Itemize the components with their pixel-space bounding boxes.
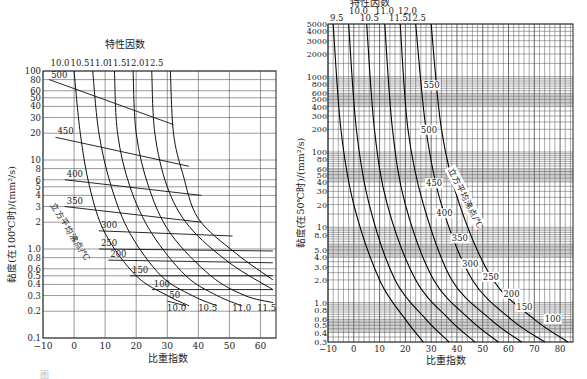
x-tick-label: 70 xyxy=(529,344,540,354)
cf-bottom-label: 11.5 xyxy=(257,303,276,313)
bp-label: 250 xyxy=(101,238,117,248)
cf-top-label: 9.5 xyxy=(330,13,344,23)
bp-label: 500 xyxy=(51,70,67,80)
left-y-axis-title: 黏度(在100℃时)/(mm²/s) xyxy=(6,166,17,283)
y-tick-label: 80 xyxy=(317,155,327,164)
right-cf-curves xyxy=(333,24,568,342)
y-tick-label: 0.3 xyxy=(27,291,41,301)
cf-bottom-label: 10.0 xyxy=(167,303,186,313)
bp-label: 150 xyxy=(516,302,532,312)
y-tick-label: 8 xyxy=(36,164,41,174)
bp-label: 150 xyxy=(132,265,148,275)
bp-label: 450 xyxy=(426,178,442,188)
x-tick-label: 10 xyxy=(99,341,111,351)
y-tick-label: 20 xyxy=(317,201,327,210)
y-tick-label: 3 xyxy=(36,202,41,212)
cf-top-label: 11.0 xyxy=(90,58,109,68)
y-tick-label: 0.4 xyxy=(314,329,327,338)
left-chart-title: 特性因数 xyxy=(105,38,145,50)
y-tick-label: 80 xyxy=(30,75,41,85)
bp-line-200 xyxy=(108,260,273,263)
bp-label: 400 xyxy=(436,208,452,218)
y-tick-label: 300 xyxy=(312,112,327,121)
x-tick-label: 0 xyxy=(71,341,77,351)
cf-top-label: 10.0 xyxy=(51,58,70,68)
figure-canvas: 100806050403020108654321.00.80.60.50.40.… xyxy=(0,0,587,379)
left-x-axis: −100102030405060 xyxy=(34,341,267,351)
bp-label: 500 xyxy=(421,125,437,135)
cf-bottom-label: 11.0 xyxy=(232,303,251,313)
left-chart: 100806050403020108654321.00.80.60.50.40.… xyxy=(6,38,276,364)
left-x-axis-title: 比重指数 xyxy=(148,352,188,364)
right-y-axis: 5000400030002000100080060050040030020010… xyxy=(307,20,327,347)
y-tick-label: 200 xyxy=(312,125,327,134)
y-tick-label: 2.0 xyxy=(314,276,327,285)
y-tick-label: 30 xyxy=(30,113,41,123)
x-tick-label: 40 xyxy=(452,344,463,354)
x-tick-label: 50 xyxy=(477,344,488,354)
y-tick-label: 4.0 xyxy=(314,253,327,262)
right-y-axis-title: 黏度(在50℃时)/(mm²/s) xyxy=(295,138,306,249)
cf-curve-12.0 xyxy=(152,71,273,290)
bp-label: 100 xyxy=(545,314,561,324)
right-x-axis-title: 比重指数 xyxy=(426,354,466,366)
bp-label: 450 xyxy=(57,126,73,136)
x-tick-label: 20 xyxy=(400,344,411,354)
x-tick-label: 80 xyxy=(555,344,566,354)
bp-label: 300 xyxy=(101,220,117,230)
x-tick-label: 40 xyxy=(193,341,205,351)
cf-curve-12.5 xyxy=(170,71,273,280)
y-tick-label: 0.8 xyxy=(314,306,327,315)
x-tick-label: 50 xyxy=(224,341,236,351)
bp-label: 350 xyxy=(67,196,83,206)
bp-line-500 xyxy=(49,80,173,125)
y-tick-label: 400 xyxy=(312,103,327,112)
bp-line-400 xyxy=(65,180,202,196)
right-x-axis: −1001020304050607080 xyxy=(319,344,565,354)
x-tick-label: −10 xyxy=(319,344,337,354)
left-bp-axis-label: 立方平均沸点/℃ xyxy=(48,201,92,263)
cf-top-label: 12.5 xyxy=(145,58,164,68)
x-tick-label: 30 xyxy=(426,344,437,354)
figure-caption: 图 xyxy=(40,370,49,379)
bp-label: 50 xyxy=(169,290,180,300)
cf-top-label: 11.5 xyxy=(108,58,127,68)
cf-curve-9.5 xyxy=(333,24,423,342)
y-tick-label: 800 xyxy=(312,80,327,89)
y-tick-label: 40 xyxy=(30,101,41,111)
bp-label: 200 xyxy=(110,249,126,259)
y-tick-label: 20 xyxy=(30,128,41,138)
y-tick-label: 3.0 xyxy=(314,263,327,272)
y-tick-label: 2000 xyxy=(307,50,327,59)
bp-label: 200 xyxy=(503,289,519,299)
cf-top-label: 10.5 xyxy=(71,58,90,68)
x-tick-label: 0 xyxy=(351,344,356,354)
y-tick-label: 2 xyxy=(36,217,41,227)
x-tick-label: 20 xyxy=(130,341,142,351)
x-tick-label: 10 xyxy=(374,344,385,354)
y-tick-label: 4000 xyxy=(307,27,327,36)
left-bp-lines: 50045040035030025020015010050 xyxy=(49,70,273,306)
y-tick-label: 3000 xyxy=(307,37,327,46)
bp-label: 550 xyxy=(423,80,439,90)
y-tick-label: 0.4 xyxy=(27,279,41,289)
bp-line-450 xyxy=(55,137,189,166)
bp-label: 100 xyxy=(154,279,170,289)
y-tick-label: 4 xyxy=(36,190,41,200)
y-tick-label: 0.2 xyxy=(27,306,41,316)
bp-label: 400 xyxy=(67,169,83,179)
x-tick-label: −10 xyxy=(34,341,53,351)
y-tick-label: 8.0 xyxy=(314,231,327,240)
right-chart: 5000400030002000100080060050040030020010… xyxy=(295,0,573,366)
y-tick-label: 0.8 xyxy=(27,253,41,263)
x-tick-label: 60 xyxy=(255,341,267,351)
bp-label: 300 xyxy=(462,259,478,269)
x-tick-label: 30 xyxy=(162,341,174,351)
cf-bottom-label: 10.5 xyxy=(198,303,217,313)
cf-top-label: 12.0 xyxy=(126,58,145,68)
x-tick-label: 60 xyxy=(503,344,514,354)
y-tick-label: 40 xyxy=(317,178,327,187)
bp-label: 250 xyxy=(483,272,499,282)
cf-top-label: 12.5 xyxy=(407,13,426,23)
y-tick-label: 30 xyxy=(317,187,327,196)
